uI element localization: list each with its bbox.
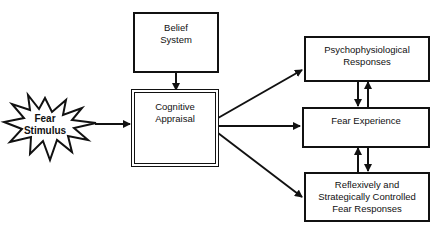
- belief-system-label: Belief System: [160, 22, 192, 46]
- psychophysiological-box: Psychophysiological Responses: [304, 36, 430, 82]
- arrow-appraisal-to-controlled-responses: [218, 133, 302, 197]
- arrow-appraisal-to-psychophysiological: [218, 70, 302, 118]
- cognitive-appraisal-box: Cognitive Appraisal: [131, 89, 219, 167]
- psychophysiological-label: Psychophysiological Responses: [324, 44, 410, 68]
- fear-experience-box: Fear Experience: [302, 107, 430, 148]
- controlled-responses-box: Reflexively and Strategically Controlled…: [304, 172, 430, 222]
- belief-system-box: Belief System: [133, 12, 219, 73]
- controlled-responses-label: Reflexively and Strategically Controlled…: [318, 179, 416, 215]
- fear-stimulus-label: Fear Stimulus: [22, 113, 68, 137]
- fear-experience-label: Fear Experience: [331, 115, 401, 127]
- cognitive-appraisal-label: Cognitive Appraisal: [155, 101, 195, 125]
